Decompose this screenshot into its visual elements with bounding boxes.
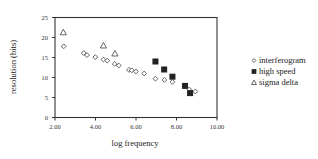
legend-item-interferogram: interferogram (252, 55, 306, 65)
square-marker-icon (187, 90, 193, 96)
y-tick-label: 5 (45, 94, 48, 101)
triangle-marker-icon (100, 42, 106, 48)
y-tick-label: 0 (45, 114, 48, 121)
square-marker-icon (252, 69, 257, 74)
triangle-marker-icon (252, 80, 257, 84)
diamond-marker-icon (193, 89, 198, 94)
x-tick-label: 6.00 (130, 123, 141, 130)
diamond-marker-icon (61, 44, 66, 49)
diamond-marker-icon (93, 55, 98, 60)
series-interferogram (61, 44, 197, 94)
series-high-speed (152, 59, 193, 97)
diamond-marker-icon (142, 71, 147, 76)
plot-border (55, 18, 217, 118)
data-points (60, 29, 198, 96)
diamond-marker-icon (252, 59, 256, 63)
square-marker-icon (182, 83, 188, 89)
diamond-marker-icon (170, 80, 175, 85)
series-sigma-delta (60, 29, 118, 56)
legend-label: interferogram (259, 55, 306, 65)
y-tick-label: 15 (42, 54, 49, 61)
legend-label: high speed (259, 66, 296, 76)
triangle-marker-icon (112, 50, 118, 56)
y-axis-ticks: 0510152025 (42, 14, 56, 121)
plot-frame (55, 18, 217, 118)
y-axis-title: resolution (bits) (8, 40, 18, 94)
square-marker-icon (252, 69, 257, 74)
y-tick-label: 20 (42, 34, 49, 41)
legend-item-high-speed: high speed (252, 66, 297, 76)
square-marker-icon (161, 67, 167, 73)
square-marker-icon (169, 74, 175, 80)
legend: interferogram high speed sigma delta (252, 55, 307, 87)
y-tick-label: 10 (42, 74, 49, 81)
square-marker-icon (152, 59, 158, 65)
x-tick-label: 2.00 (49, 123, 60, 130)
diamond-marker-icon (153, 76, 158, 81)
x-axis-title: log frequency (112, 138, 160, 148)
x-tick-label: 4.00 (90, 123, 101, 130)
triangle-marker-icon (252, 80, 257, 84)
triangle-marker-icon (60, 29, 66, 35)
x-axis-ticks: 2.004.006.008.0010.00 (49, 118, 224, 130)
y-tick-label: 25 (42, 14, 49, 21)
diamond-marker-icon (252, 59, 256, 63)
x-tick-label: 8.00 (171, 123, 182, 130)
scatter-chart: 0510152025 2.004.006.008.0010.00 resolut… (0, 0, 318, 159)
x-tick-label: 10.00 (210, 123, 225, 130)
diamond-marker-icon (162, 78, 167, 83)
diamond-marker-icon (134, 69, 139, 74)
legend-label: sigma delta (259, 77, 298, 87)
legend-item-sigma-delta: sigma delta (252, 77, 299, 87)
